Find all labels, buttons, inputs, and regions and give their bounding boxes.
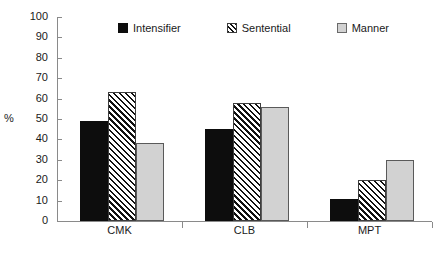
bar-chart: % Intensifier Sentential Manner 10090807… xyxy=(0,0,444,255)
y-tick-label: 20 xyxy=(36,173,48,185)
bar-mpt-manner xyxy=(386,160,414,221)
x-tick-label-mpt: MPT xyxy=(358,224,381,236)
x-tick-label-clb: CLB xyxy=(234,224,255,236)
y-tick-mark xyxy=(57,78,62,79)
bar-clb-sentential xyxy=(233,103,261,221)
y-axis-line xyxy=(57,18,58,222)
y-tick-mark xyxy=(57,17,62,18)
y-tick-label: 100 xyxy=(30,10,48,22)
y-tick-label: 0 xyxy=(42,214,48,226)
y-tick-label: 80 xyxy=(36,51,48,63)
bar-mpt-intensifier xyxy=(330,199,358,221)
y-tick-label: 10 xyxy=(36,194,48,206)
x-tick-mark xyxy=(307,222,308,228)
bar-cmk-intensifier xyxy=(80,121,108,221)
x-axis-line xyxy=(57,221,432,222)
bar-clb-intensifier xyxy=(205,129,233,221)
y-tick-mark xyxy=(57,221,62,222)
x-tick-mark xyxy=(182,222,183,228)
y-tick-mark xyxy=(57,160,62,161)
bar-clb-manner xyxy=(261,107,289,221)
y-tick-label: 70 xyxy=(36,71,48,83)
bar-cmk-sentential xyxy=(108,92,136,221)
plot-area: 1009080706050403020100 CMKCLBMPT xyxy=(57,18,432,222)
y-tick-mark xyxy=(57,58,62,59)
x-tick-label-cmk: CMK xyxy=(107,224,131,236)
y-tick-label: 90 xyxy=(36,30,48,42)
y-tick-label: 30 xyxy=(36,153,48,165)
y-tick-mark xyxy=(57,99,62,100)
bar-cmk-manner xyxy=(136,143,164,221)
y-tick-mark xyxy=(57,180,62,181)
y-tick-mark xyxy=(57,119,62,120)
y-tick-label: 40 xyxy=(36,132,48,144)
y-tick-mark xyxy=(57,37,62,38)
y-tick-mark xyxy=(57,201,62,202)
y-tick-mark xyxy=(57,139,62,140)
bar-mpt-sentential xyxy=(358,180,386,221)
y-tick-label: 60 xyxy=(36,92,48,104)
y-tick-label: 50 xyxy=(36,112,48,124)
x-tick-mark xyxy=(432,222,433,228)
y-axis-title: % xyxy=(4,112,14,124)
